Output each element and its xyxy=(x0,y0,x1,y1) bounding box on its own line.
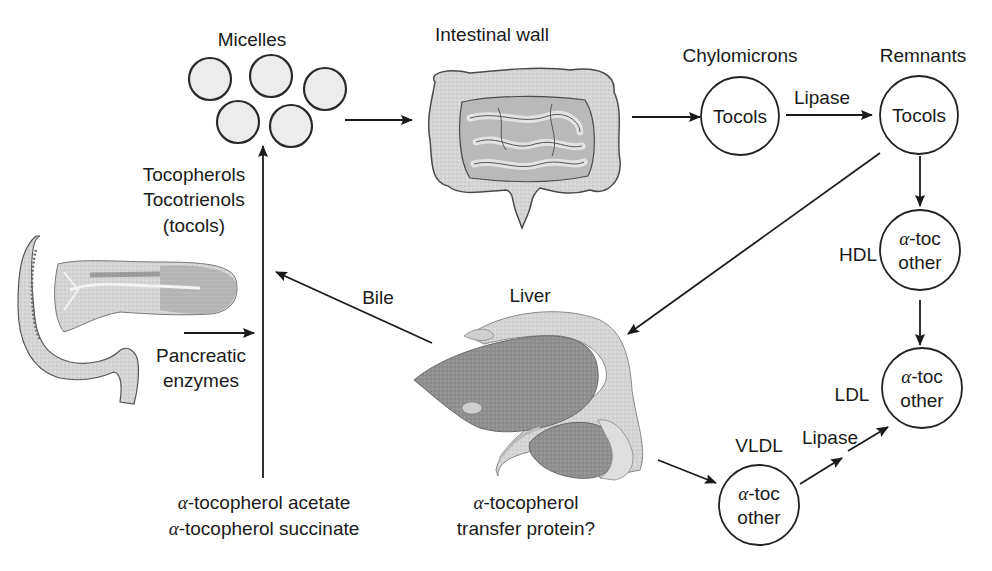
hdl-line1-suffix: -toc xyxy=(909,228,941,249)
enzymes-label: enzymes xyxy=(163,370,239,391)
tocopherols-label: Tocopherols xyxy=(143,164,245,185)
lipase-label-bottom: Lipase xyxy=(802,427,858,448)
tocols-text: Tocopherols Tocotrienols (tocols) xyxy=(143,164,245,236)
ldl-label: LDL xyxy=(835,384,870,405)
ldl-line2: other xyxy=(900,390,944,411)
remnants-content: Tocols xyxy=(892,105,946,126)
vldl-circle xyxy=(719,465,799,545)
tocols-label: (tocols) xyxy=(163,215,225,236)
succinate-text: -tocopherol succinate xyxy=(179,518,360,539)
ldl-line1-suffix: -toc xyxy=(911,366,943,387)
succinate-label: α-tocopherol succinate xyxy=(169,518,360,539)
hdl-circle xyxy=(880,210,960,290)
vldl-line1: α-toc xyxy=(738,483,780,504)
bile-label: Bile xyxy=(362,287,394,308)
liver-label: Liver xyxy=(509,285,551,306)
transfer-protein-label: transfer protein? xyxy=(457,518,595,539)
ldl-circle xyxy=(882,348,962,428)
vldl-node: VLDL α-toc other xyxy=(719,435,799,545)
arrow-vldl-to-lipase xyxy=(800,458,842,484)
tocopherol-esters-text: α-tocopherol acetate α-tocopherol succin… xyxy=(169,492,360,539)
arrow-liver-to-vldl xyxy=(658,460,716,483)
tocotrienols-label: Tocotrienols xyxy=(143,189,244,210)
intestine-illustration: Intestinal wall xyxy=(429,24,621,228)
intestinal-wall-label: Intestinal wall xyxy=(435,24,549,45)
hdl-label: HDL xyxy=(839,244,877,265)
acetate-text: -tocopherol acetate xyxy=(188,492,351,513)
vitamin-e-absorption-diagram: Micelles Intestinal wall Chylomicrons To… xyxy=(0,0,992,571)
vldl-line1-suffix: -toc xyxy=(748,483,780,504)
hdl-node: HDL α-toc other xyxy=(839,210,960,290)
micelle-icon xyxy=(189,58,231,100)
tocopherol-label: α-tocopherol xyxy=(473,492,578,513)
ldl-line1: α-toc xyxy=(901,366,943,387)
micelles-group: Micelles xyxy=(189,29,346,147)
tocopherol-text: -tocopherol xyxy=(483,492,578,513)
chylomicrons-content: Tocols xyxy=(713,106,767,127)
micelle-icon xyxy=(270,105,312,147)
chylomicrons-node: Chylomicrons Tocols xyxy=(682,45,797,155)
arrow-liver-bile xyxy=(276,272,432,343)
lipase-label-top: Lipase xyxy=(794,87,850,108)
micelle-icon xyxy=(304,68,346,110)
vldl-line2: other xyxy=(737,507,781,528)
remnants-node: Remnants Tocols xyxy=(880,45,967,154)
vldl-label: VLDL xyxy=(735,435,783,456)
micelle-icon xyxy=(250,55,292,97)
hdl-line1: α-toc xyxy=(899,228,941,249)
pancreatic-label: Pancreatic xyxy=(156,345,246,366)
hdl-line2: other xyxy=(898,252,942,273)
chylomicrons-label: Chylomicrons xyxy=(682,45,797,66)
remnants-label: Remnants xyxy=(880,45,967,66)
micelles-label: Micelles xyxy=(218,29,287,50)
micelle-icon xyxy=(217,101,259,143)
liver-illustration: Liver xyxy=(414,285,643,480)
ldl-node: LDL α-toc other xyxy=(835,348,962,428)
transfer-protein-text: α-tocopherol transfer protein? xyxy=(457,492,595,539)
acetate-label: α-tocopherol acetate xyxy=(178,492,351,513)
